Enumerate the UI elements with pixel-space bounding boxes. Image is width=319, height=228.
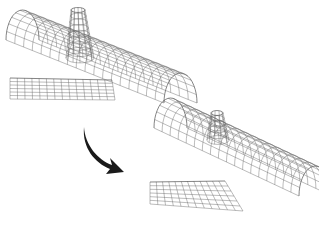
panel-row	[150, 197, 237, 201]
cone-ray	[82, 8, 88, 54]
panel-row	[150, 204, 243, 211]
after-model	[150, 98, 319, 211]
cylinder-rule	[168, 98, 313, 166]
before-model	[6, 8, 197, 103]
cylinder-arc	[299, 166, 319, 196]
cylinder-rule	[173, 98, 318, 166]
curved-arrow-icon	[84, 127, 124, 174]
cylinder-rule	[157, 112, 302, 180]
cone-ring	[211, 111, 223, 116]
cylinder-rule	[12, 17, 170, 80]
cylinder-rule	[184, 112, 319, 180]
cone-ray	[84, 11, 92, 60]
cylinder-rule	[29, 13, 187, 76]
cylinder-rule	[36, 24, 194, 87]
cylinder-rule	[38, 32, 196, 95]
wireframe-diagram	[0, 0, 319, 228]
cylinder-rule	[186, 120, 319, 188]
cylinder-rule	[160, 105, 305, 173]
cylinder-rule	[155, 120, 300, 188]
cylinder-rule	[181, 105, 319, 173]
cylinder-rule	[6, 40, 164, 103]
cylinder-rule	[164, 101, 309, 169]
cylinder-rule	[25, 10, 183, 73]
panel-row	[150, 193, 234, 196]
